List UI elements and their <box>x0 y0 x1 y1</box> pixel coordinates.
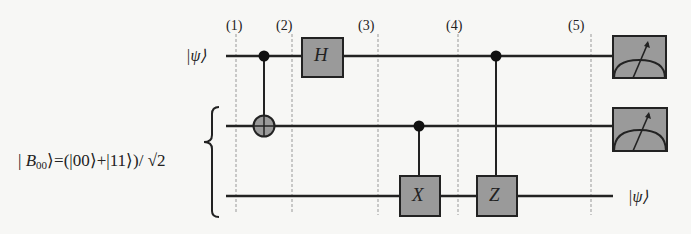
entangled-pair-brace <box>204 107 219 217</box>
bell-expression: ⟩=(|00⟩+|11⟩)/ √2 <box>47 151 165 170</box>
meter-icon <box>613 36 666 78</box>
z-gate-label: Z <box>489 184 500 206</box>
bell-subscript: 00 <box>36 159 47 171</box>
control-dot-icon <box>414 121 425 132</box>
control-dot-icon <box>259 51 270 62</box>
bell-B: B <box>26 151 36 170</box>
control-dot-icon <box>491 51 502 62</box>
step-label-5: (5) <box>568 18 584 34</box>
step-label-4: (4) <box>446 18 462 34</box>
h-gate-label: H <box>314 44 328 66</box>
output-state-label: |ψ⟩ <box>628 187 648 206</box>
step-label-2: (2) <box>276 18 292 34</box>
bell-state-label: | B00⟩=(|00⟩+|11⟩)/ √2 <box>18 150 166 171</box>
x-gate-label: X <box>412 184 424 206</box>
step-label-1: (1) <box>226 18 242 34</box>
input-state-label: |ψ⟩ <box>186 46 206 65</box>
circuit-diagram: (1) (2) (3) (4) (5) H X Z |ψ⟩ |ψ⟩ | B00⟩… <box>0 0 691 234</box>
step-label-3: (3) <box>358 18 374 34</box>
circuit-svg <box>0 0 691 234</box>
measurement-meter-1 <box>613 36 666 78</box>
measurement-meter-2 <box>613 108 667 151</box>
cnot-gate <box>254 51 275 137</box>
bell-prefix: | <box>18 151 26 170</box>
